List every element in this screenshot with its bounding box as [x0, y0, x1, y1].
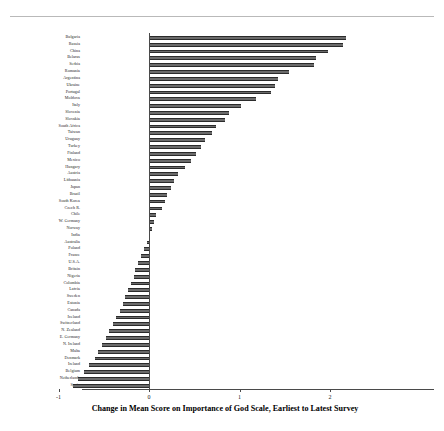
bar	[149, 186, 171, 190]
bar	[141, 254, 149, 258]
category-label: Japan	[70, 185, 80, 189]
bar	[149, 179, 174, 183]
bar	[120, 309, 149, 313]
category-label: Romania	[65, 69, 80, 73]
category-label: Nigeria	[67, 274, 80, 278]
axis-tick-label: 2	[320, 394, 340, 401]
category-label: Belgium	[66, 369, 80, 373]
category-label: Chile	[71, 212, 80, 216]
category-label: Belarus	[67, 55, 80, 59]
bar	[125, 295, 149, 299]
bar	[84, 370, 149, 374]
axis-tick-label: 0	[139, 394, 159, 401]
bar	[135, 268, 149, 272]
category-label: Czech R.	[65, 206, 80, 210]
category-label: Moldova	[65, 96, 80, 100]
category-label: Latvia	[69, 287, 80, 291]
axis-tick-label: 1	[230, 394, 250, 401]
category-label: Australia	[65, 240, 80, 244]
category-label: Slovenia	[65, 110, 80, 114]
bar	[149, 145, 201, 149]
bar	[149, 84, 275, 88]
category-label: Britain	[68, 267, 80, 271]
category-label: Finland	[67, 151, 80, 155]
category-label: Sweden	[67, 294, 80, 298]
category-label: Bulgaria	[66, 35, 81, 39]
bar	[149, 166, 185, 170]
category-label: Netherlands	[60, 376, 80, 380]
category-label: Canada	[67, 308, 80, 312]
bar	[89, 363, 149, 367]
category-label: Iceland	[68, 315, 80, 319]
bar	[73, 384, 149, 388]
bar	[149, 118, 225, 122]
axis-tick	[59, 389, 60, 392]
bar	[149, 131, 212, 135]
category-label: E. Germany	[60, 335, 80, 339]
bar	[149, 207, 162, 211]
bar	[149, 193, 167, 197]
bar	[134, 275, 149, 279]
axis-tick	[240, 389, 241, 392]
category-label: Colombia	[63, 281, 80, 285]
bar	[128, 288, 149, 292]
category-label: Argentina	[63, 76, 80, 80]
category-label: South Africa	[59, 124, 80, 128]
category-axis-labels: BulgariaRussiaChinaBelarusSerbiaRomaniaA…	[16, 33, 80, 391]
axis-tick	[330, 389, 331, 392]
category-label: U.S.A.	[68, 260, 80, 264]
category-label: Ireland	[68, 362, 80, 366]
bar	[149, 159, 191, 163]
category-label: Malta	[70, 349, 80, 353]
bar	[149, 97, 256, 101]
category-label: Denmark	[64, 356, 80, 360]
bar	[109, 329, 149, 333]
category-label: Lithuania	[64, 178, 80, 182]
category-label: Hungary	[65, 165, 80, 169]
category-label: W. Germany	[59, 219, 80, 223]
bar	[123, 302, 149, 306]
category-label: Serbia	[69, 62, 80, 66]
bar	[149, 152, 196, 156]
category-label: Turkey	[68, 144, 80, 148]
bar	[98, 350, 149, 354]
bar	[149, 43, 343, 47]
bar	[78, 377, 149, 381]
category-label: Ukraine	[66, 83, 80, 87]
bar	[149, 213, 156, 217]
category-label: China	[70, 49, 80, 53]
category-label: N. Zealand	[61, 328, 80, 332]
bar	[149, 63, 314, 67]
bar	[149, 36, 346, 40]
category-label: South Korea	[59, 199, 80, 203]
zero-axis-line	[149, 33, 150, 391]
bar	[149, 104, 241, 108]
axis-tick	[149, 389, 150, 392]
bar	[102, 343, 149, 347]
bar	[149, 111, 229, 115]
category-label: Poland	[68, 246, 80, 250]
category-label: India	[71, 233, 80, 237]
bar	[149, 91, 271, 95]
category-label: Taiwan	[68, 130, 80, 134]
axis-tick-label: -1	[49, 394, 69, 401]
category-label: Norway	[67, 226, 81, 230]
category-label: Austria	[68, 171, 80, 175]
bar	[116, 316, 149, 320]
bar	[149, 200, 165, 204]
category-label: Italy	[72, 103, 80, 107]
bar	[149, 172, 178, 176]
bar-chart: BulgariaRussiaChinaBelarusSerbiaRomaniaA…	[0, 0, 444, 431]
bar	[149, 138, 205, 142]
chart-title: Change in Mean Score on Importance of Go…	[62, 404, 388, 415]
category-label: Switzerland	[60, 321, 80, 325]
bar	[149, 77, 278, 81]
category-label: Mexico	[67, 158, 80, 162]
bar	[113, 322, 149, 326]
category-label: Estonia	[67, 301, 80, 305]
bar	[138, 261, 149, 265]
category-label: France	[69, 253, 80, 257]
category-label: Brazil	[70, 192, 80, 196]
bar	[149, 56, 316, 60]
category-label: Uruguay	[65, 137, 80, 141]
